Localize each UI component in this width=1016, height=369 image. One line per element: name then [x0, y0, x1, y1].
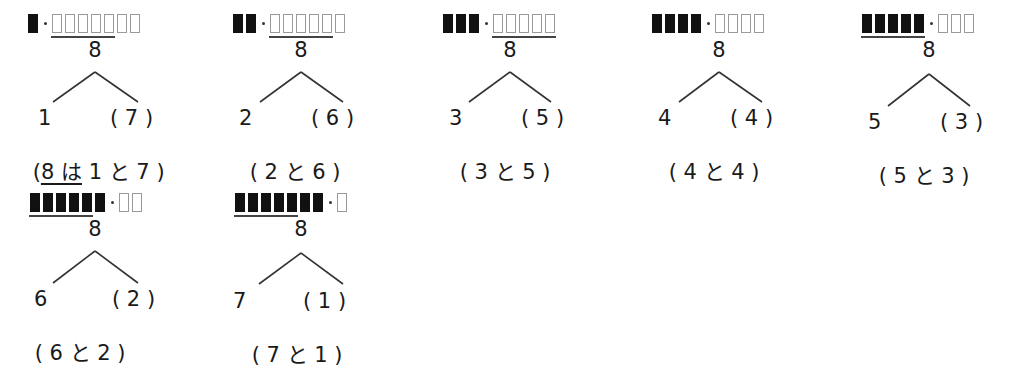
decomposition-item-1: 8 1 ( 7 ) (8 は 1 と 7 )	[28, 14, 228, 184]
left-part: 3	[449, 106, 462, 130]
left-part: 4	[658, 106, 671, 130]
group-of-five-underline	[234, 215, 298, 217]
pair-underlined: 8 は	[41, 160, 82, 184]
pair-text: ( 7 と 1 )	[252, 343, 343, 367]
right-part-answer: ( 3 )	[940, 110, 983, 134]
pair-sentence: ( 5 と 3 )	[852, 140, 970, 212]
pair-sentence: ( 4 と 4 )	[642, 136, 760, 208]
right-part-answer: ( 6 )	[311, 106, 354, 130]
decomposition-item-5: 8 5 ( 3 ) ( 5 と 3 )	[862, 14, 1016, 184]
decomposition-item-7: 8 7 ( 1 ) ( 7 と 1 )	[235, 193, 435, 363]
right-part-answer: ( 5 )	[521, 106, 564, 130]
left-part: 7	[233, 289, 246, 313]
pair-text: ( 2 と 6 )	[250, 160, 341, 184]
right-part-answer: ( 2 )	[112, 287, 155, 311]
left-part: 6	[34, 287, 47, 311]
decomposition-item-4: 8 4 ( 4 ) ( 4 と 4 )	[652, 14, 852, 184]
pair-rest: 1 と 7 )	[82, 160, 165, 184]
pair-text: ( 5 と 3 )	[879, 164, 970, 188]
pair-text: ( 4 と 4 )	[669, 160, 760, 184]
pair-sentence: ( 3 と 5 )	[433, 136, 551, 208]
group-of-five-underline	[29, 215, 93, 217]
left-part: 2	[239, 106, 252, 130]
decomposition-item-6: 8 6 ( 2 ) ( 6 と 2 )	[30, 193, 230, 363]
right-part-answer: ( 4 )	[730, 106, 773, 130]
pair-open: (	[33, 160, 41, 184]
group-of-five-underline	[51, 36, 115, 38]
group-of-five-underline	[492, 36, 556, 38]
pair-text: ( 3 と 5 )	[460, 160, 551, 184]
pair-text: ( 6 と 2 )	[35, 341, 126, 365]
group-of-five-underline	[861, 36, 925, 38]
pair-sentence: ( 6 と 2 )	[8, 317, 126, 369]
decomposition-item-2: 8 2 ( 6 ) ( 2 と 6 )	[233, 14, 433, 184]
right-part-answer: ( 1 )	[303, 289, 346, 313]
left-part: 5	[868, 110, 881, 134]
decomposition-item-3: 8 3 ( 5 ) ( 3 と 5 )	[443, 14, 643, 184]
left-part: 1	[38, 106, 51, 130]
group-of-five-underline	[269, 36, 333, 38]
pair-sentence: ( 7 と 1 )	[225, 319, 343, 369]
right-part-answer: ( 7 )	[110, 106, 153, 130]
